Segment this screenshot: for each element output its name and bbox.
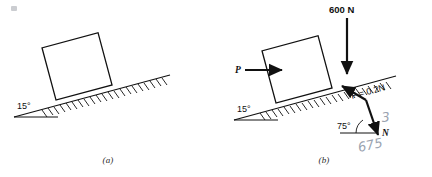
- normal-force-label: N: [381, 128, 390, 138]
- panel-a: 15° (a): [0, 0, 216, 177]
- block-a: [42, 33, 112, 100]
- physics-figure: 15° (a): [0, 0, 432, 177]
- applied-force-label: P: [235, 65, 241, 75]
- panel-caption-a: (a): [0, 155, 216, 165]
- weight-force-label: 600 N: [329, 4, 354, 15]
- normal-force-arrow: [366, 100, 378, 135]
- handwritten-note-675: 675: [357, 135, 384, 155]
- friction-force-label: F = 0.2N: [350, 82, 386, 101]
- panel-b: 15° 600 N P F = 0.2N: [216, 0, 432, 177]
- normal-angle-label: 75°: [337, 121, 351, 131]
- handwritten-correction-3: 3: [381, 109, 391, 125]
- incline-angle-label-a: 15°: [17, 101, 31, 111]
- incline-angle-label-b: 15°: [237, 104, 251, 114]
- panel-caption-b: (b): [216, 155, 432, 165]
